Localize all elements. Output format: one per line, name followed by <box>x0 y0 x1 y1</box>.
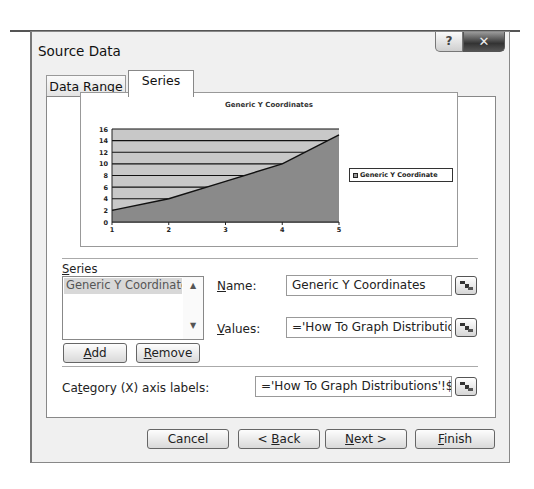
collapse-dialog-icon <box>456 378 476 395</box>
svg-text:14: 14 <box>99 137 109 145</box>
add-series-button[interactable]: Add <box>63 343 127 363</box>
category-axis-label: Category (X) axis labels: <box>62 381 209 395</box>
dialog-title: Source Data <box>38 43 121 59</box>
scroll-down-icon[interactable]: ▼ <box>183 321 203 335</box>
collapse-dialog-icon <box>456 277 476 294</box>
legend-swatch-icon <box>353 173 358 178</box>
chart-preview: Generic Y Coordinates 024681012141612345… <box>80 92 458 247</box>
svg-text:16: 16 <box>99 126 109 134</box>
category-axis-field[interactable]: ='How To Graph Distributions'!$A$1 <box>255 376 452 397</box>
series-listbox[interactable]: Generic Y Coordinate ▲ ▼ <box>62 276 204 340</box>
svg-text:2: 2 <box>166 226 171 234</box>
svg-text:5: 5 <box>337 226 342 234</box>
section-divider <box>62 258 478 259</box>
tab-label: Series <box>142 73 180 88</box>
cancel-button[interactable]: Cancel <box>147 429 229 449</box>
legend-label: Generic Y Coordinate <box>360 171 438 179</box>
svg-text:3: 3 <box>223 226 228 234</box>
svg-text:12: 12 <box>99 149 108 157</box>
series-list-item[interactable]: Generic Y Coordinate <box>64 278 182 294</box>
tab-series[interactable]: Series <box>128 70 194 97</box>
next-button[interactable]: Next > <box>325 429 407 449</box>
svg-text:2: 2 <box>103 207 108 215</box>
help-button[interactable]: ? <box>435 32 463 52</box>
remove-series-button[interactable]: Remove <box>136 343 200 363</box>
close-button[interactable]: ✕ <box>463 32 505 52</box>
svg-text:6: 6 <box>103 184 108 192</box>
chart-legend: Generic Y Coordinate <box>349 168 453 182</box>
svg-text:0: 0 <box>103 219 108 227</box>
svg-text:4: 4 <box>280 226 285 234</box>
listbox-scrollbar[interactable]: ▲ ▼ <box>183 277 203 339</box>
category-range-selector-button[interactable] <box>455 377 477 396</box>
name-range-selector-button[interactable] <box>455 276 477 295</box>
back-button[interactable]: < Back <box>238 429 320 449</box>
values-range-selector-button[interactable] <box>455 318 477 337</box>
name-field[interactable]: Generic Y Coordinates <box>286 275 452 296</box>
finish-button[interactable]: Finish <box>415 429 495 449</box>
svg-text:4: 4 <box>103 195 108 203</box>
svg-text:8: 8 <box>103 172 108 180</box>
svg-text:10: 10 <box>99 160 109 168</box>
help-icon: ? <box>446 34 453 48</box>
series-label: Series <box>62 262 97 276</box>
collapse-dialog-icon <box>456 319 476 336</box>
scroll-up-icon[interactable]: ▲ <box>183 281 203 295</box>
svg-text:1: 1 <box>110 226 115 234</box>
name-label: Name: <box>217 279 256 293</box>
title-bar[interactable]: Source Data ? ✕ <box>32 32 509 65</box>
section-divider <box>62 366 478 367</box>
values-label: Values: <box>217 322 260 336</box>
close-icon: ✕ <box>479 34 490 49</box>
values-field[interactable]: ='How To Graph Distributions <box>286 317 452 338</box>
